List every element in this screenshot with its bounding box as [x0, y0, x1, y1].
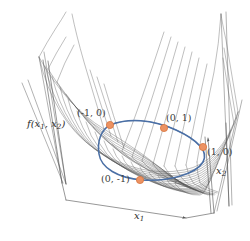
x1-axis-line: [66, 200, 186, 218]
base-edge-left: [62, 183, 66, 200]
point-minus1-0: [106, 121, 113, 128]
point-0-minus1: [136, 176, 143, 183]
surface-plot-canvas: [0, 0, 250, 241]
surface-mesh: [22, 12, 242, 213]
base-edge-right-lower: [186, 213, 214, 218]
f-axis-line-inner: [48, 61, 66, 184]
figure-root: f(x1, x2) x1 x2 (-1, 0) (0, 1) (1, 0) (0…: [0, 0, 250, 241]
point-0-1: [160, 124, 167, 131]
point-1-0: [199, 143, 206, 150]
